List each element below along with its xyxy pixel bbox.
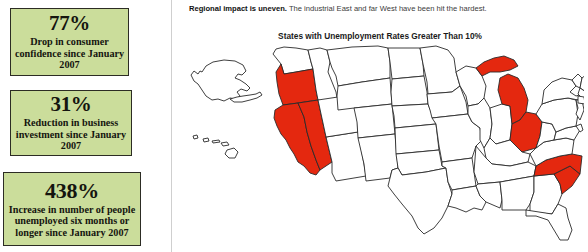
regional-impact-note: Regional impact is uneven. The industria…	[189, 4, 581, 13]
state-hawaii-molokai	[212, 140, 220, 143]
stat-value: 438%	[45, 180, 99, 202]
map-panel: Regional impact is uneven. The industria…	[172, 0, 588, 252]
state-michigan-upper	[476, 56, 518, 76]
state-indiana	[490, 104, 512, 144]
note-lead: Regional impact is uneven.	[189, 4, 287, 13]
us-map-svg	[180, 42, 584, 248]
state-south-dakota	[391, 76, 428, 106]
state-north-dakota	[388, 48, 424, 79]
stat-value: 31%	[50, 94, 91, 115]
state-connecticut	[578, 96, 584, 104]
us-choropleth-map	[180, 42, 584, 248]
stat-description: Reduction in business investment since J…	[11, 117, 131, 151]
state-hawaii-maui	[221, 142, 229, 146]
stat-card-consumer-confidence: 77% Drop in consumer confidence since Ja…	[10, 8, 129, 76]
state-kansas	[395, 124, 439, 154]
note-rest: The industrial East and far West have be…	[287, 4, 487, 13]
stat-value: 77%	[49, 13, 90, 34]
statistics-panel: 77% Drop in consumer confidence since Ja…	[0, 0, 172, 252]
state-alabama	[500, 176, 534, 210]
stat-card-business-investment: 31% Reduction in business investment sin…	[10, 90, 132, 156]
infographic-page: 77% Drop in consumer confidence since Ja…	[0, 0, 588, 252]
stat-card-long-term-unemployed: 438% Increase in number of people unempl…	[3, 172, 141, 246]
state-texas	[388, 168, 452, 234]
stat-description: Drop in consumer confidence since Januar…	[11, 36, 128, 70]
state-hawaii-oahu	[203, 138, 209, 142]
state-colorado	[354, 104, 395, 138]
state-alaska	[191, 60, 250, 101]
map-title: States with Unemployment Rates Greater T…	[172, 31, 588, 41]
stat-description: Increase in number of people unemployed …	[4, 204, 140, 238]
state-hawaii-big-island	[225, 148, 238, 158]
state-hawaii-kauai	[193, 135, 198, 139]
